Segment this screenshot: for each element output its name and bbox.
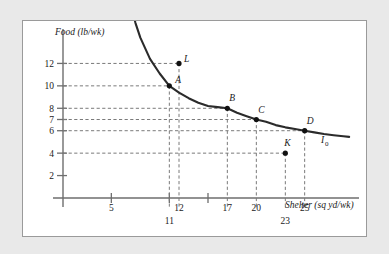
y-tick-label: 8 <box>49 104 54 114</box>
curve-group <box>131 21 349 137</box>
x-tick-label: 17 <box>223 203 233 213</box>
y-tick-label: 7 <box>49 115 54 125</box>
x-tick-label: 23 <box>281 216 291 226</box>
data-point-c <box>254 117 259 122</box>
dashed-guide-lines <box>63 63 305 207</box>
data-points-group: LABCDK <box>167 54 314 155</box>
x-axis-title: Shelter (sq yd/wk) <box>285 200 354 211</box>
curve-label-subscript: 0 <box>325 140 329 148</box>
y-tick-label: 2 <box>49 171 54 181</box>
point-label-a: A <box>174 75 181 85</box>
indifference-curve <box>131 21 349 137</box>
point-label-c: C <box>258 105 265 115</box>
y-tick-label: 4 <box>49 149 54 159</box>
y-tick-label: 12 <box>45 59 55 69</box>
data-point-d <box>302 128 307 133</box>
y-tick-label: 10 <box>45 81 55 91</box>
data-point-k <box>283 151 288 156</box>
figure-panel: LABCDK 1210876425111217202325 Food (lb/w… <box>22 20 367 237</box>
x-tick-label: 12 <box>174 203 184 213</box>
data-point-b <box>225 106 230 111</box>
y-tick-label: 6 <box>49 126 54 136</box>
x-tick-label: 5 <box>109 203 114 213</box>
point-label-d: D <box>306 116 314 126</box>
data-point-a <box>167 83 172 88</box>
x-tick-label: 20 <box>252 203 262 213</box>
point-label-b: B <box>229 93 235 103</box>
y-axis-title: Food (lb/wk) <box>54 27 104 38</box>
point-label-k: K <box>283 138 291 148</box>
indifference-curve-chart: LABCDK 1210876425111217202325 Food (lb/w… <box>23 21 366 236</box>
data-point-l <box>176 61 181 66</box>
point-label-l: L <box>183 54 189 64</box>
x-tick-label: 11 <box>165 216 174 226</box>
